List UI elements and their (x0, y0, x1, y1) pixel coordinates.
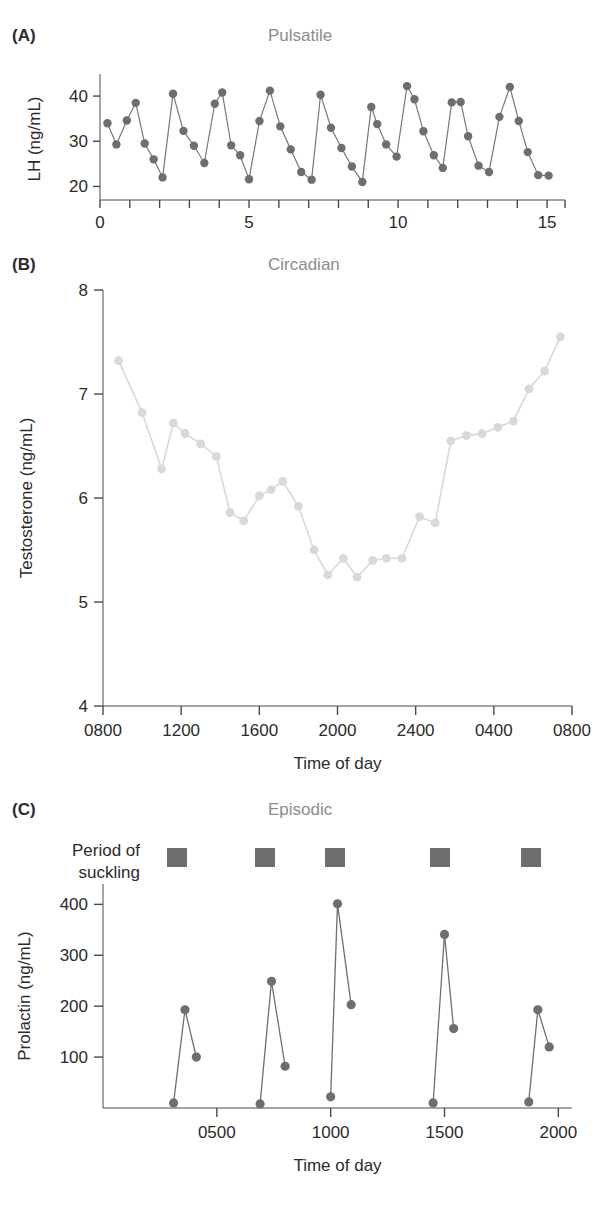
panel-a-data-point (149, 155, 157, 163)
panel-c-data-point (192, 1052, 201, 1061)
panel-b-data-point (446, 436, 455, 445)
panel-b-data-point (226, 508, 235, 517)
panel-a-series-line (107, 86, 548, 182)
panel-b-data-point (157, 464, 166, 473)
panel-a-data-point (358, 178, 366, 186)
panel-c-ytick-label: 400 (60, 895, 88, 914)
panel-a-ylabel: LH (ng/mL) (25, 96, 44, 181)
panel-b-data-point (323, 571, 332, 580)
panel-c-data-point (333, 899, 342, 908)
panel-c-data-point (255, 1099, 264, 1108)
panel-c-xtick-label: 0500 (198, 1123, 236, 1142)
panel-b-data-point (212, 452, 221, 461)
panel-c-xtick-label: 2000 (539, 1123, 577, 1142)
panel-a-data-point (169, 90, 177, 98)
panel-a-data-point (410, 95, 418, 103)
panel-b-data-point (556, 332, 565, 341)
panel-b-plot: 456780800120016002000240004000800Time of… (0, 240, 597, 780)
panel-b-xtick-label: 0400 (475, 721, 513, 740)
panel-b-xtick-label: 1200 (162, 721, 200, 740)
panel-a-data-point (382, 140, 390, 148)
hormone-secretion-figure: (A) Pulsatile 203040051015LH (ng/mL) (B)… (0, 0, 597, 1231)
panel-b-data-point (114, 356, 123, 365)
panel-a-data-point (464, 132, 472, 140)
panel-b-xtick-label: 0800 (553, 721, 591, 740)
panel-a-data-point (348, 162, 356, 170)
panel-c-episode-line (433, 934, 453, 1103)
panel-c-xtick-label: 1000 (312, 1123, 350, 1142)
panel-b-ytick-label: 7 (79, 385, 88, 404)
panel-c-ytick-label: 100 (60, 1048, 88, 1067)
panel-c-ytick-label: 300 (60, 946, 88, 965)
panel-c-ylabel: Prolactin (ng/mL) (15, 931, 34, 1060)
panel-b-data-point (310, 546, 319, 555)
panel-c-data-point (440, 930, 449, 939)
panel-a-data-point (236, 151, 244, 159)
panel-c-episode-line (260, 981, 285, 1104)
panel-a-data-point (218, 88, 226, 96)
panel-a-data-point (524, 148, 532, 156)
panel-b-data-point (181, 429, 190, 438)
panel-a-data-point (439, 164, 447, 172)
panel-c-data-point (281, 1062, 290, 1071)
panel-a-xtick-label: 5 (244, 213, 253, 232)
panel-a-data-point (266, 86, 274, 94)
panel-b-data-point (509, 417, 518, 426)
panel-a-ytick-label: 40 (69, 87, 88, 106)
panel-a-data-point (456, 98, 464, 106)
panel-b-data-point (196, 440, 205, 449)
panel-b-circadian: (B) Circadian 45678080012001600200024000… (0, 240, 597, 780)
panel-b-ytick-label: 4 (79, 697, 88, 716)
panel-c-data-point (326, 1092, 335, 1101)
panel-a-data-point (255, 117, 263, 125)
panel-c-data-point (429, 1098, 438, 1107)
panel-a-xtick-label: 10 (389, 213, 408, 232)
panel-a-xtick-label: 0 (95, 213, 104, 232)
panel-a-data-point (276, 122, 284, 130)
panel-b-data-point (255, 492, 264, 501)
panel-b-ytick-label: 5 (79, 593, 88, 612)
panel-b-xtick-label: 2000 (319, 721, 357, 740)
panel-a-data-point (403, 82, 411, 90)
panel-c-data-point (169, 1098, 178, 1107)
panel-b-data-point (368, 556, 377, 565)
panel-a-ytick-label: 20 (69, 177, 88, 196)
panel-c-episode-line (331, 904, 351, 1097)
panel-a-data-point (327, 124, 335, 132)
panel-a-data-point (200, 159, 208, 167)
panel-c-data-point (347, 1000, 356, 1009)
panel-b-xtick-label: 0800 (84, 721, 122, 740)
panel-b-data-point (169, 419, 178, 428)
panel-b-data-point (239, 516, 248, 525)
panel-b-xtick-label: 2400 (397, 721, 435, 740)
panel-a-data-point (158, 173, 166, 181)
panel-b-data-point (267, 485, 276, 494)
panel-b-data-point (294, 502, 303, 511)
panel-a-data-point (367, 103, 375, 111)
panel-a-data-point (474, 161, 482, 169)
panel-a-data-point (112, 140, 120, 148)
panel-a-plot: 203040051015LH (ng/mL) (0, 0, 597, 240)
panel-c-episode-line (529, 1010, 549, 1102)
panel-b-data-point (431, 519, 440, 528)
panel-b-data-point (462, 431, 471, 440)
panel-a-data-point (227, 141, 235, 149)
panel-a-data-point (495, 113, 503, 121)
panel-b-data-point (540, 367, 549, 376)
panel-c-episodic: (C) Episodic Period of suckling 10020030… (0, 780, 597, 1231)
panel-b-data-point (382, 554, 391, 563)
panel-b-data-point (353, 573, 362, 582)
panel-c-ytick-label: 200 (60, 997, 88, 1016)
panel-c-data-point (180, 1005, 189, 1014)
panel-c-plot: 1002003004000500100015002000Time of dayP… (0, 780, 597, 1231)
panel-b-data-point (493, 423, 502, 432)
panel-a-data-point (448, 98, 456, 106)
panel-b-ytick-label: 6 (79, 489, 88, 508)
panel-c-xtick-label: 1500 (426, 1123, 464, 1142)
panel-a-data-point (392, 152, 400, 160)
panel-a-data-point (245, 175, 253, 183)
panel-a-data-point (132, 99, 140, 107)
panel-a-pulsatile: (A) Pulsatile 203040051015LH (ng/mL) (0, 0, 597, 240)
panel-a-data-point (373, 120, 381, 128)
panel-b-xtick-label: 1600 (240, 721, 278, 740)
